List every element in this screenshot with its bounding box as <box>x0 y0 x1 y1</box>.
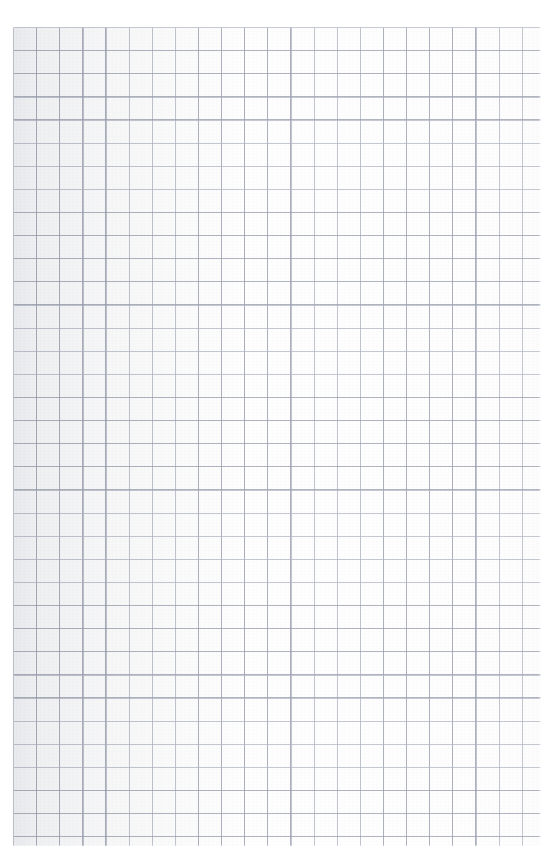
grid-horizontal-lines <box>13 27 541 846</box>
grid-region <box>13 27 541 846</box>
graph-paper-page <box>0 0 554 866</box>
